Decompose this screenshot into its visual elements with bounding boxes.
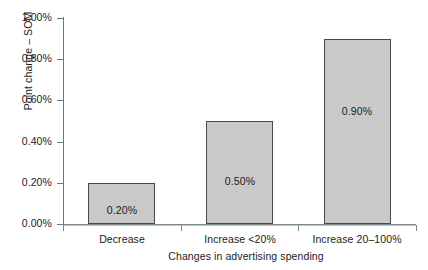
x-axis-title: Changes in advertising spending [64, 250, 428, 262]
y-axis-tick [57, 18, 64, 19]
y-axis-tick [57, 100, 64, 101]
y-axis-tick [57, 183, 64, 184]
x-axis-category-label: Decrease [99, 233, 145, 245]
y-axis-tick-label: 0.40% [0, 135, 52, 147]
x-axis-tick [63, 225, 64, 231]
y-axis-tick-label: 0.60% [0, 93, 52, 105]
bar-value-label: 0.50% [225, 175, 255, 187]
x-axis-tick [416, 225, 417, 231]
y-axis-tick [57, 59, 64, 60]
x-axis-category-label: Increase <20% [204, 233, 276, 245]
x-axis-tick [181, 225, 182, 231]
y-axis-line [63, 17, 64, 225]
x-axis-tick [298, 225, 299, 231]
y-axis-tick-label: 0.20% [0, 176, 52, 188]
x-axis-category-label: Increase 20–100% [312, 233, 401, 245]
y-axis-tick-label: 1.00% [0, 11, 52, 23]
x-axis-line-shadow [63, 225, 416, 226]
bar [206, 121, 273, 224]
y-axis-tick [57, 142, 64, 143]
y-axis-tick-label: 0.80% [0, 52, 52, 64]
bar-value-label: 0.90% [342, 105, 372, 117]
bar [324, 39, 391, 224]
bar-chart: Point change – SOM 0.00%0.20%0.40%0.60%0… [0, 0, 428, 270]
y-axis-tick-label: 0.00% [0, 217, 52, 229]
bar-value-label: 0.20% [107, 204, 137, 216]
